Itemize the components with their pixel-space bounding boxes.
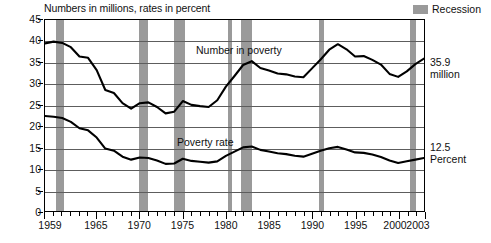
x-axis-minor-tick	[321, 212, 322, 216]
x-axis-major-tick	[96, 212, 97, 219]
y-axis-tick-label: 20	[3, 121, 41, 131]
x-axis-labels: 1959196519701975198019851990199520002003	[0, 219, 491, 235]
y-axis-tick	[38, 191, 43, 192]
x-axis-minor-tick	[295, 212, 296, 216]
x-axis-minor-tick	[122, 212, 123, 216]
y-axis-tick	[38, 169, 43, 170]
x-axis-minor-tick	[113, 212, 114, 216]
annotation-rate-value: 12.5	[430, 142, 466, 154]
y-axis-tick-label: 30	[3, 78, 41, 88]
x-axis-minor-tick	[217, 212, 218, 216]
x-axis-minor-tick	[61, 212, 62, 216]
x-axis-tick-label: 1985	[257, 219, 280, 231]
legend-label-recession: Recession	[432, 3, 481, 15]
x-axis-minor-tick	[148, 212, 149, 216]
poverty-chart-figure: Numbers in millions, rates in percent Re…	[0, 0, 491, 243]
y-axis-tick	[38, 19, 43, 20]
x-axis-minor-tick	[53, 212, 54, 216]
x-axis-minor-tick	[131, 212, 132, 216]
x-axis-tick-label: 2000	[383, 219, 406, 231]
x-axis-major-tick	[139, 212, 140, 219]
x-axis-major-tick	[312, 212, 313, 219]
x-axis-minor-tick	[70, 212, 71, 216]
y-axis-tick	[38, 83, 43, 84]
x-axis-minor-tick	[416, 212, 417, 216]
x-axis-minor-tick	[243, 212, 244, 216]
x-axis-minor-tick	[79, 212, 80, 216]
x-axis-minor-tick	[87, 212, 88, 216]
y-axis-tick	[38, 212, 43, 213]
x-axis-minor-tick	[235, 212, 236, 216]
x-axis-minor-tick	[174, 212, 175, 216]
recession-swatch-icon	[413, 5, 428, 14]
x-axis-major-tick	[226, 212, 227, 219]
x-axis-major-tick	[183, 212, 184, 219]
annotation-rate-unit: Percent	[430, 154, 466, 166]
x-axis-minor-tick	[304, 212, 305, 216]
x-axis-minor-tick	[408, 212, 409, 216]
y-axis-tick	[38, 105, 43, 106]
x-axis-minor-tick	[373, 212, 374, 216]
x-axis-major-tick	[399, 212, 400, 219]
annotation-poverty-rate: 12.5 Percent	[430, 142, 466, 165]
y-axis-tick-label: 0	[3, 207, 41, 217]
y-axis-tick	[38, 62, 43, 63]
x-axis-tick-label: 1975	[171, 219, 194, 231]
x-axis-minor-tick	[191, 212, 192, 216]
x-axis-tick-label: 1970	[128, 219, 151, 231]
x-axis-minor-tick	[209, 212, 210, 216]
y-axis-tick	[38, 126, 43, 127]
x-axis-minor-tick	[252, 212, 253, 216]
legend: Recession	[413, 3, 481, 15]
x-axis-minor-tick	[338, 212, 339, 216]
x-axis-tick-label: 1995	[344, 219, 367, 231]
x-axis-major-tick	[425, 212, 426, 219]
y-axis-tick-label: 10	[3, 164, 41, 174]
series-label-number-in-poverty: Number in poverty	[196, 44, 282, 56]
x-axis-tick-label: 1965	[84, 219, 107, 231]
x-axis-major-tick	[269, 212, 270, 219]
y-axis-tick-label: 5	[3, 186, 41, 196]
annotation-number-unit: million	[430, 69, 460, 81]
chart-subtitle: Numbers in millions, rates in percent	[44, 2, 210, 14]
x-axis-minor-tick	[286, 212, 287, 216]
x-axis-minor-tick	[330, 212, 331, 216]
x-axis-major-tick	[356, 212, 357, 219]
x-axis-minor-tick	[165, 212, 166, 216]
y-axis-tick	[38, 148, 43, 149]
annotation-number-in-poverty: 35.9 million	[430, 57, 460, 80]
series-line	[45, 116, 424, 164]
series-label-poverty-rate: Poverty rate	[177, 136, 234, 148]
y-axis: 051015202530354045	[0, 19, 41, 212]
x-axis-minor-tick	[157, 212, 158, 216]
x-axis-tick-label: 1990	[301, 219, 324, 231]
y-axis-tick-label: 25	[3, 100, 41, 110]
y-axis-tick	[38, 40, 43, 41]
y-axis-tick-label: 15	[3, 143, 41, 153]
x-axis-minor-tick	[382, 212, 383, 216]
x-axis-minor-tick	[347, 212, 348, 216]
x-axis-minor-tick	[278, 212, 279, 216]
x-axis-minor-tick	[390, 212, 391, 216]
x-axis-minor-tick	[260, 212, 261, 216]
y-axis-tick-label: 45	[3, 14, 41, 24]
x-axis-minor-tick	[105, 212, 106, 216]
x-axis-minor-tick	[200, 212, 201, 216]
x-axis-tick-label: 2003	[406, 219, 429, 231]
x-axis-tick-label: 1959	[38, 219, 61, 231]
annotation-number-value: 35.9	[430, 57, 460, 69]
y-axis-tick-label: 40	[3, 35, 41, 45]
y-axis-tick-label: 35	[3, 57, 41, 67]
x-axis-major-tick	[44, 212, 45, 219]
x-axis-minor-tick	[364, 212, 365, 216]
x-axis-tick-label: 1980	[214, 219, 237, 231]
